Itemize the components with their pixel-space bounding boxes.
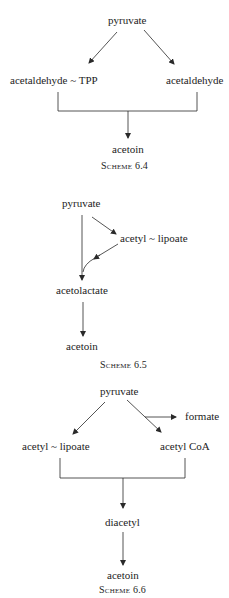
node-acetoin-6-5: acetoin	[66, 340, 98, 352]
bracket-6-6	[60, 458, 185, 478]
node-acetoin-6-6: acetoin	[107, 569, 139, 581]
caption-scheme-6-5: Scheme 6.5	[100, 359, 147, 371]
caption-scheme-6-6: Scheme 6.6	[99, 584, 146, 596]
node-pyruvate-6-4: pyruvate	[108, 14, 146, 26]
arrow-pyruvate-to-acetyl-lipoate-6-6	[73, 402, 105, 434]
bracket-6-4	[58, 92, 197, 111]
scheme-arrows	[0, 0, 229, 598]
arrow-pyruvate-to-acetaldehyde	[144, 30, 174, 64]
node-acetaldehyde-tpp: acetaldehyde ~ TPP	[10, 74, 98, 86]
node-acetoin-6-4: acetoin	[112, 143, 144, 155]
node-formate: formate	[185, 410, 219, 422]
node-acetyl-lipoate-6-5: acetyl ~ lipoate	[120, 232, 188, 244]
node-acetolactate: acetolactate	[56, 284, 108, 296]
node-pyruvate-6-6: pyruvate	[100, 385, 138, 397]
node-acetaldehyde: acetaldehyde	[166, 74, 223, 86]
arrow-pyruvate-to-acetyl-lipoate	[92, 217, 116, 234]
node-acetyl-lipoate-6-6: acetyl ~ lipoate	[22, 440, 90, 452]
arrow-acetyl-lipoate-merge	[83, 244, 118, 272]
node-diacetyl: diacetyl	[105, 516, 140, 528]
node-acetyl-coa: acetyl CoA	[160, 440, 210, 452]
arrow-pyruvate-to-acetyl-coa	[127, 400, 161, 432]
arrow-pyruvate-to-acetaldehyde-tpp	[89, 32, 117, 63]
node-pyruvate-6-5: pyruvate	[62, 197, 100, 209]
caption-scheme-6-4: Scheme 6.4	[101, 160, 148, 172]
